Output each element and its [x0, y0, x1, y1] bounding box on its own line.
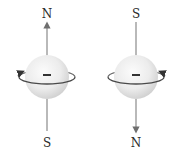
- right-sphere: [114, 55, 158, 99]
- right-top-pole-label: S: [132, 7, 140, 21]
- right-charge-minus-icon: [132, 74, 140, 76]
- left-sphere: [25, 55, 69, 99]
- particle-right: S N: [108, 7, 165, 150]
- right-bottom-pole-label: N: [131, 136, 142, 150]
- left-bottom-pole-label: S: [43, 136, 51, 150]
- particle-left: N S: [18, 7, 75, 150]
- spin-diagram: N S S N: [0, 0, 178, 156]
- left-top-pole-label: N: [42, 7, 53, 21]
- left-charge-minus-icon: [43, 74, 51, 76]
